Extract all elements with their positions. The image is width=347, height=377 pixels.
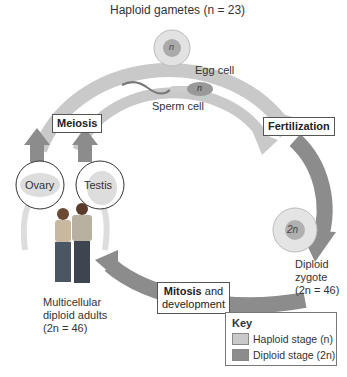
mitosis-label: Mitosis and development — [157, 282, 230, 314]
gametes-title: Haploid gametes (n = 23) — [110, 4, 245, 17]
adults-label: Multicellular diploid adults (2n = 46) — [43, 296, 107, 335]
egg-cell-label: Egg cell — [195, 64, 234, 77]
zygote-line3: (2n = 46) — [295, 284, 339, 297]
haploid-swatch — [232, 333, 249, 345]
mitosis-development: development — [162, 298, 225, 310]
mitosis-and: and — [202, 285, 223, 297]
zygote-line1: Diploid — [295, 258, 339, 271]
adults-line3: (2n = 46) — [43, 322, 107, 335]
diploid-swatch — [232, 349, 249, 361]
legend-item-diploid: Diploid stage (2n) — [232, 349, 335, 361]
egg-nucleus-label: n — [169, 41, 174, 54]
adults-figure — [55, 203, 92, 283]
sperm-cell-label: Sperm cell — [152, 100, 204, 113]
ovary-label: Ovary — [25, 179, 54, 192]
adults-line2: diploid adults — [43, 309, 107, 322]
legend-item-haploid: Haploid stage (n) — [232, 333, 333, 345]
zygote-nucleus-label: 2n — [287, 223, 298, 236]
diploid-label: Diploid stage (2n) — [253, 349, 335, 361]
legend: Key Haploid stage (n) Diploid stage (2n) — [225, 312, 337, 366]
legend-title: Key — [232, 317, 252, 329]
mitosis-bold: Mitosis — [164, 285, 202, 297]
zygote-label: Diploid zygote (2n = 46) — [295, 258, 339, 297]
meiosis-label: Meiosis — [52, 114, 102, 133]
testis-label: Testis — [84, 179, 112, 192]
adults-line1: Multicellular — [43, 296, 107, 309]
sperm-nucleus-label: n — [197, 82, 202, 95]
haploid-label: Haploid stage (n) — [253, 333, 333, 345]
fertilization-label: Fertilization — [263, 117, 335, 136]
zygote-line2: zygote — [295, 271, 339, 284]
